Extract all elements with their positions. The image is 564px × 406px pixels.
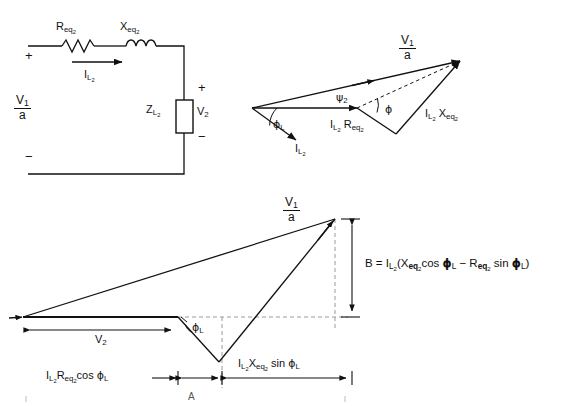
circuit-reactance-sub: eq2	[127, 25, 139, 34]
circuit-load-minus: −	[198, 130, 206, 143]
circuit-source-numerator: V1	[14, 94, 31, 108]
vector-v1-over-a-bottom	[23, 219, 335, 317]
dashed-phi-reference	[357, 61, 460, 108]
phasor-top-il2-req2-label: IL2 Req2	[330, 119, 364, 134]
angle-arc-phi	[377, 99, 378, 113]
dimension-xsin-label: IL2Xeq2 sin ϕL	[238, 358, 300, 373]
bottom-marker-label: A	[188, 392, 195, 402]
circuit-reactance-label: Xeq2	[120, 21, 139, 36]
load-impedance-box	[176, 100, 193, 133]
circuit-current-sub: L2	[87, 73, 95, 82]
resistor-symbol	[62, 40, 94, 52]
vector-xdrop-bottom	[219, 219, 335, 362]
phasor-bottom-phi-l-label: ϕL	[192, 322, 204, 335]
inductor-symbol	[126, 40, 156, 46]
circuit-current-label: IL2	[84, 69, 95, 84]
phasor-bottom-v2-label: V2	[95, 334, 107, 347]
circuit-source-plus: +	[25, 49, 33, 62]
phasor-bottom-v1-denominator: a	[283, 210, 300, 224]
phasor-top-psi2-label: ψ2	[336, 92, 348, 105]
circuit-source-label: V1 a	[14, 94, 31, 122]
circuit-load-plus: +	[198, 81, 206, 94]
circuit-source-minus: −	[25, 150, 33, 163]
figure-canvas: Req2 Xeq2 IL2 + − V1 a ZL2 + V2 − V1 a ψ…	[0, 0, 564, 406]
phasor-top-phi-l-label: ϕL	[273, 119, 285, 132]
phasor-top-v1-denominator: a	[399, 48, 416, 62]
phasor-top-il2-label: IL2	[295, 143, 306, 158]
phasor-top-il2-sub: L2	[298, 147, 306, 156]
circuit-resistor-label: Req2	[56, 21, 76, 36]
circuit-load-voltage-sub: 2	[204, 110, 208, 119]
vector-il2-xeq2	[396, 61, 460, 134]
phasor-top-phi-l-sub: L	[280, 123, 284, 132]
phasor-bottom-v2-sub: 2	[102, 338, 106, 347]
vector-v1-over-a-midarrow	[352, 81, 374, 86]
vector-origin-arrow	[9, 317, 22, 318]
circuit-schematic	[28, 40, 184, 174]
circuit-load-label: ZL2	[146, 104, 160, 119]
phasor-top-psi2-sub: 2	[343, 96, 347, 105]
wire-top-right	[156, 46, 184, 100]
dimension-rcos-label: IL2Req2cos ϕL	[46, 370, 108, 385]
phasor-top-v1-over-a: V1 a	[399, 34, 416, 62]
circuit-source-denominator: a	[14, 108, 31, 122]
dimension-b	[341, 219, 360, 317]
phasor-top-v1-numerator: V1	[399, 34, 416, 48]
dimension-bottom-chain	[152, 371, 352, 385]
figure-vector-layer	[0, 0, 564, 406]
dimension-b-equation-label: B = IL2(Xeq2cos ϕL − Req2 sin ϕL)	[365, 258, 529, 273]
phasor-bottom-vectors	[9, 219, 335, 362]
phasor-top-il2-xeq2-label: IL2 Xeq2	[425, 108, 458, 123]
circuit-load-sub: L2	[153, 108, 161, 117]
phasor-bottom-phi-l-sub: L	[199, 326, 203, 335]
phasor-top-phi-label: ϕ	[385, 104, 392, 115]
wire-bottom	[28, 133, 184, 174]
registration-marks	[26, 396, 345, 402]
phasor-bottom-v1-over-a: V1 a	[283, 196, 300, 224]
phasor-bottom-v1-numerator: V1	[283, 196, 300, 210]
circuit-resistor-sub: eq2	[64, 25, 76, 34]
circuit-load-voltage-label: V2	[197, 106, 209, 119]
